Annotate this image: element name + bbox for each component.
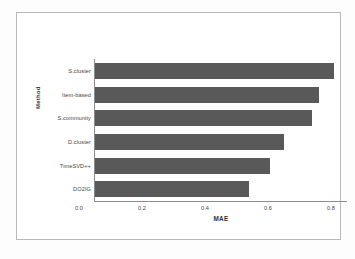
bar [95,181,249,197]
bar-row: D.cluster [95,134,284,150]
bar-row: TimeSVD++ [95,158,270,174]
bar [95,87,319,103]
figure-canvas: Method S.clusterItem-basedS.communityD.c… [0,0,355,259]
bar [95,110,312,126]
y-tick-label: DO2IG [73,186,91,192]
bar-row: DO2IG [95,181,249,197]
y-tick-label: Item-based [62,92,91,98]
bar-row: S.cluster [95,63,334,79]
y-tick-label: TimeSVD++ [60,163,91,169]
bar-row: Item-based [95,87,319,103]
y-tick-label: D.cluster [68,139,91,145]
bar [95,63,334,79]
bar-row: S.community [95,110,312,126]
x-tick-label: 0.0 [75,205,83,211]
x-axis-line [95,201,347,202]
x-axis-title: MAE [95,215,347,222]
x-tick-label: 0.6 [264,205,272,211]
chart-frame: Method S.clusterItem-basedS.communityD.c… [16,12,341,240]
x-tick-label: 0.8 [327,205,335,211]
y-tick-label: S.community [58,115,91,121]
x-tick-label: 0.4 [201,205,209,211]
x-tick-label: 0.2 [138,205,146,211]
bar [95,158,270,174]
y-tick-label: S.cluster [68,68,91,74]
plot-area: S.clusterItem-basedS.communityD.clusterT… [95,59,347,201]
bar [95,134,284,150]
y-axis-title: Method [35,86,41,109]
